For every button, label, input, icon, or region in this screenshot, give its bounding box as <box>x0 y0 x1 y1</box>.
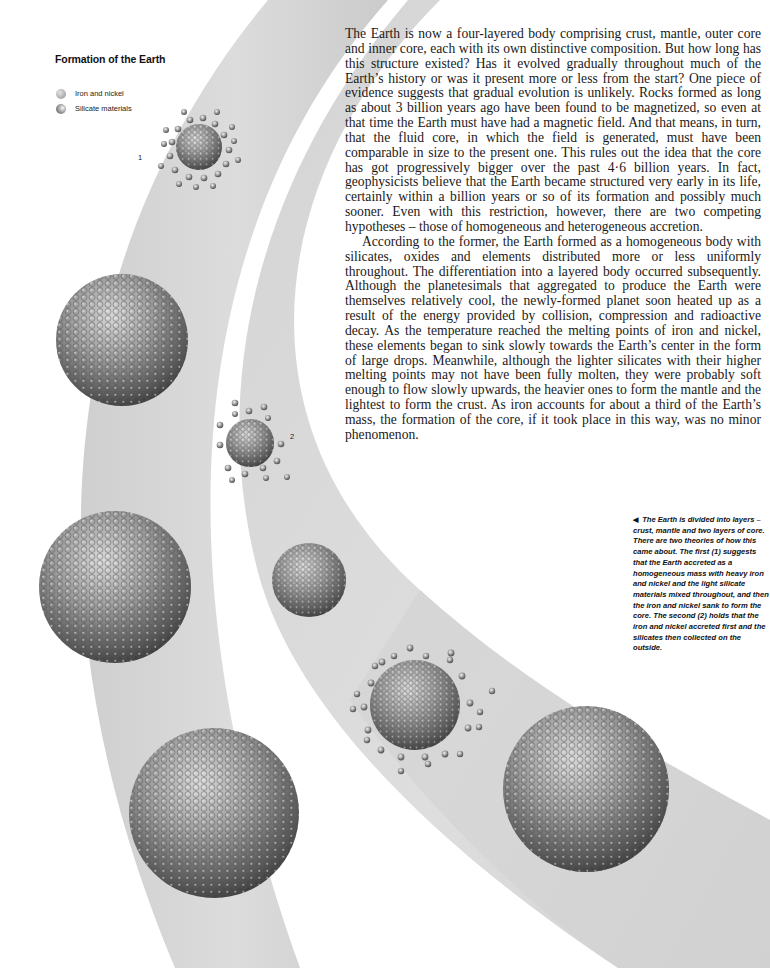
article-paragraph: The Earth is now a four-layered body com… <box>345 27 761 235</box>
figure-caption: ◀ The Earth is divided into layers – cru… <box>633 515 769 654</box>
iron-nickel-sphere-icon <box>56 89 66 99</box>
figure-title: Formation of the Earth <box>55 53 165 65</box>
sphere-iron-core <box>272 543 346 617</box>
legend-label: Silicate materials <box>75 104 132 113</box>
legend-item-iron-nickel: Iron and nickel <box>56 86 132 101</box>
silicate-sphere-icon <box>56 104 66 114</box>
caption-text: The Earth is divided into layers – crust… <box>633 515 769 652</box>
sphere-homogeneous-3 <box>129 728 299 898</box>
sphere-heterogeneous-final <box>503 706 669 872</box>
sphere-homogeneous-2 <box>39 511 191 663</box>
sequence-label-1: 1 <box>138 153 142 162</box>
sphere-homogeneous-1 <box>56 274 188 406</box>
left-arrow-icon: ◀ <box>633 516 638 523</box>
article-body: The Earth is now a four-layered body com… <box>345 27 761 443</box>
sequence-label-2: 2 <box>290 432 294 441</box>
legend-label: Iron and nickel <box>75 89 124 98</box>
article-paragraph: According to the former, the Earth forme… <box>345 235 761 443</box>
legend: Iron and nickel Silicate materials <box>56 86 132 116</box>
legend-item-silicate: Silicate materials <box>56 101 132 116</box>
